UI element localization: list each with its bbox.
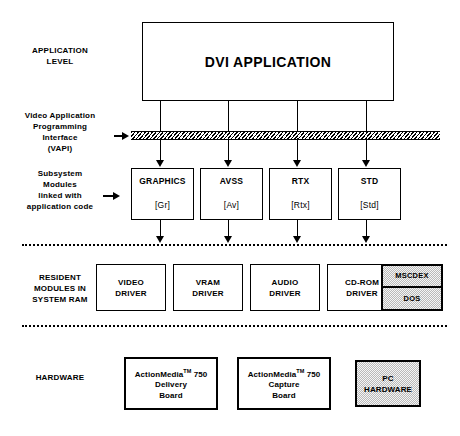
label-line: Modules	[8, 179, 112, 190]
side-label-application-level: APPLICATION LEVEL	[8, 45, 112, 67]
driver-box-audio: AUDIO DRIVER	[250, 264, 320, 311]
system-box-mscdex-label: MSCDEX	[383, 266, 441, 288]
connector-app-to-vapi-2	[228, 101, 229, 135]
connector-module-to-ram-3	[297, 220, 298, 237]
dvi-application-label: DVI APPLICATION	[205, 54, 332, 70]
side-label-subsystem-modules: Subsystem Modules linked with applicatio…	[8, 168, 112, 212]
module-tag: [Std]	[360, 200, 378, 210]
hardware-label-line: Board	[159, 390, 183, 401]
separator-hardware-top	[22, 325, 447, 327]
driver-label-line: DRIVER	[269, 288, 300, 299]
vapi-pointer-arrow-icon	[122, 132, 129, 140]
connector-app-to-vapi-3	[297, 101, 298, 135]
label-line: HARDWARE	[8, 372, 112, 383]
driver-label-line: DRIVER	[192, 288, 223, 299]
module-tag: [Gr]	[155, 200, 170, 210]
label-line: Video Application	[8, 110, 112, 121]
label-line: Subsystem	[8, 168, 112, 179]
module-name: STD	[361, 176, 379, 186]
connector-vapi-to-module-1	[160, 138, 161, 161]
module-tag: [Rtx]	[291, 200, 309, 210]
system-box-mscdex-dos: MSCDEX DOS	[381, 264, 443, 311]
hardware-label-line: Board	[272, 390, 296, 401]
connector-vapi-to-module-3	[297, 138, 298, 161]
driver-label-line: AUDIO	[272, 277, 299, 288]
system-box-dos-label: DOS	[383, 288, 441, 310]
hardware-label-line: HARDWARE	[364, 384, 412, 395]
arrow-down-icon	[156, 160, 164, 167]
module-box-rtx: RTX [Rtx]	[269, 168, 332, 220]
driver-label-line: VIDEO	[118, 277, 144, 288]
module-tag: [Av]	[224, 200, 239, 210]
side-label-vapi: Video Application Programming Interface …	[8, 110, 112, 154]
arrow-down-icon	[156, 236, 164, 243]
subsystem-pointer-arrow-icon	[113, 192, 120, 200]
module-box-graphics: GRAPHICS [Gr]	[131, 168, 194, 220]
side-label-hardware: HARDWARE	[8, 372, 112, 383]
label-line: linked with	[8, 190, 112, 201]
driver-box-vram: VRAM DRIVER	[173, 264, 243, 311]
module-name: RTX	[292, 176, 310, 186]
arrow-down-icon	[362, 160, 370, 167]
driver-label-line: DRIVER	[115, 288, 146, 299]
module-name: AVSS	[220, 176, 243, 186]
arrow-down-icon	[293, 160, 301, 167]
connector-module-to-ram-4	[366, 220, 367, 237]
connector-module-to-ram-2	[228, 220, 229, 237]
driver-label-line: DRIVER	[346, 288, 377, 299]
module-name: GRAPHICS	[139, 176, 185, 186]
hardware-label-line: Delivery	[155, 379, 187, 390]
connector-vapi-to-module-4	[366, 138, 367, 161]
connector-app-to-vapi-4	[366, 101, 367, 135]
module-box-avss: AVSS [Av]	[200, 168, 263, 220]
dvi-application-box: DVI APPLICATION	[142, 22, 394, 101]
arrow-down-icon	[362, 236, 370, 243]
connector-app-to-vapi-1	[160, 101, 161, 135]
hardware-box-delivery-board: ActionMediaTM 750 Delivery Board	[124, 357, 218, 410]
vapi-interface-bar	[131, 131, 440, 140]
label-line: APPLICATION	[8, 45, 112, 56]
module-box-std: STD [Std]	[338, 168, 401, 220]
hardware-label-line: Capture	[269, 379, 300, 390]
hardware-label-line: PC	[382, 373, 393, 384]
label-line: Interface	[8, 132, 112, 143]
hardware-box-capture-board: ActionMediaTM 750 Capture Board	[237, 357, 331, 410]
label-line: application code	[8, 201, 112, 212]
connector-module-to-ram-1	[160, 220, 161, 237]
label-line: Programming	[8, 121, 112, 132]
driver-label-line: CD-ROM	[345, 277, 379, 288]
connector-vapi-to-module-2	[228, 138, 229, 161]
arrow-down-icon	[293, 236, 301, 243]
arrow-down-icon	[224, 236, 232, 243]
driver-box-video: VIDEO DRIVER	[96, 264, 166, 311]
arrow-down-icon	[224, 160, 232, 167]
hardware-label-line: ActionMediaTM 750	[135, 366, 208, 380]
label-line: LEVEL	[8, 56, 112, 67]
dvi-architecture-diagram: APPLICATION LEVEL Video Application Prog…	[0, 0, 460, 436]
hardware-label-line: ActionMediaTM 750	[248, 366, 321, 380]
driver-label-line: VRAM	[196, 277, 220, 288]
label-line: (VAPI)	[8, 143, 112, 154]
hardware-box-pc-hardware: PC HARDWARE	[355, 360, 421, 407]
separator-resident-modules-top	[22, 244, 447, 246]
